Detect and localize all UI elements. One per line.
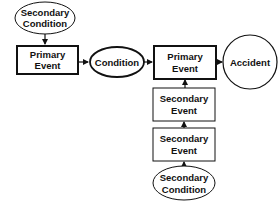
secondary-event-1-node: Secondary Event [153,88,215,121]
secondary-condition-bottom-line1: Secondary [160,172,209,183]
secondary-condition-top-line1: Secondary [21,7,70,18]
primary-event-right-line1: Primary [167,51,203,62]
secondary-event-2-line2: Event [171,145,198,156]
primary-event-left-line2: Event [35,60,62,71]
primary-event-left-line1: Primary [30,49,66,60]
condition-node: Condition [90,47,144,77]
secondary-condition-top-node: Secondary Condition [15,2,75,34]
accident-causation-diagram: Secondary Condition Primary Event Condit… [0,0,279,205]
condition-label: Condition [95,57,140,68]
secondary-event-1-line1: Secondary [160,93,209,104]
accident-label: Accident [230,57,271,68]
primary-event-right-line2: Event [172,63,199,74]
secondary-condition-bottom-line2: Condition [162,184,207,195]
secondary-condition-bottom-node: Secondary Condition [153,166,215,200]
secondary-event-1-line2: Event [171,105,198,116]
accident-node: Accident [223,35,277,89]
primary-event-right-node: Primary Event [154,46,216,79]
secondary-event-2-line1: Secondary [160,133,209,144]
secondary-condition-top-line2: Condition [23,18,68,29]
primary-event-left-node: Primary Event [17,46,78,74]
secondary-event-2-node: Secondary Event [153,128,215,161]
